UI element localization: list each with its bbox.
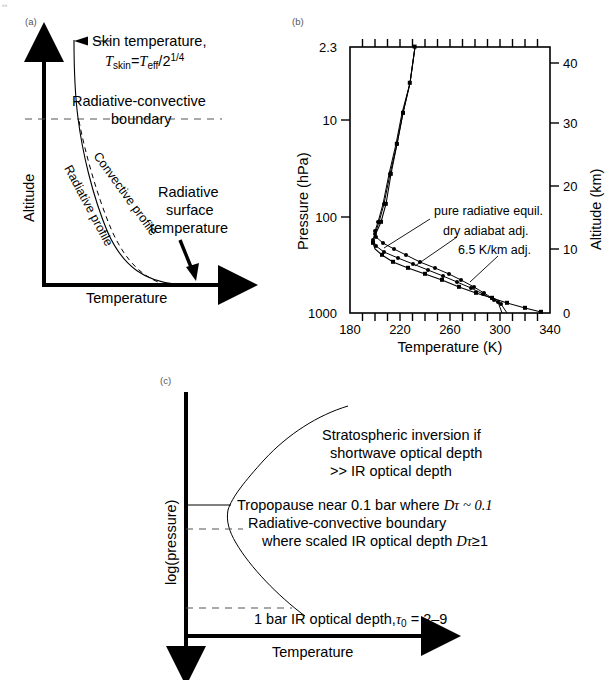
skin-eff-subscript: eff xyxy=(147,60,158,71)
panel-b-y2-axis-label: Altitude (km) xyxy=(588,169,604,250)
panel-c-rcb-line1: Radiative-convective boundary xyxy=(248,515,447,531)
panel-a-surface-label-line3: temperature xyxy=(150,220,228,236)
panel-b-leader-lapse65 xyxy=(470,256,498,282)
panel-b-markers-pure-radiative xyxy=(371,45,543,314)
panel-b-xtick-4: 340 xyxy=(539,322,561,337)
skin-exponent: 1/4 xyxy=(170,52,184,63)
panel-c-tropopause-prefix: Tropopause near 0.1 bar where xyxy=(237,497,444,513)
svg-text:Tskin=Teff/21/4: Tskin=Teff/21/4 xyxy=(105,52,185,71)
figure-container: (a) Altitude Temperature Skin temperatur… xyxy=(0,0,616,680)
skin-equals: = xyxy=(131,53,139,69)
panel-a-surface-label-line2: surface xyxy=(166,202,214,218)
panel-a-surface-label-line1: Radiative xyxy=(158,184,218,200)
panel-a-skin-equation: Tskin=Teff/21/4 xyxy=(105,52,185,71)
panel-c-rcb-suffix: ≥1 xyxy=(472,533,488,549)
panel-b-x-axis-label: Temperature (K) xyxy=(398,339,503,355)
surface-arrow-icon xyxy=(186,263,199,281)
panel-b-y2tick-0: 0 xyxy=(563,306,570,321)
panel-b-leader-dry-adiabat xyxy=(415,237,457,266)
panel-b-curve-pure-radiative xyxy=(373,47,541,312)
panel-b-label: (b) xyxy=(292,16,304,27)
panel-c-onebar-text: 1 bar IR optical depth,τ0 = 2–9 xyxy=(254,611,447,629)
panel-b-legend-dry-adiabat: dry adiabat adj. xyxy=(443,224,528,238)
panel-b-legend-pure-radiative: pure radiative equil. xyxy=(434,204,543,218)
panel-c-x-axis-label: Temperature xyxy=(272,644,353,660)
panel-c-tropopause-D: D xyxy=(443,497,455,513)
panel-b-y2tick-30: 30 xyxy=(563,116,577,131)
panel-b-x-tick-labels: 180 220 260 300 340 xyxy=(339,322,561,337)
panel-c-rcb-line2-prefix: where scaled IR optical depth xyxy=(261,533,456,549)
panel-b-curve-lapse65 xyxy=(375,47,502,313)
panel-b-y2-tick-labels: 40 30 20 10 0 xyxy=(563,56,577,321)
panel-b-y2tick-10: 10 xyxy=(563,242,577,257)
panel-c-rcb-line2: where scaled IR optical depth Dτ≥1 xyxy=(261,533,488,549)
panel-b-y-tick-labels: 2.3 10 100 1000 xyxy=(308,40,337,321)
panel-b-xtick-1: 220 xyxy=(389,322,411,337)
panel-b-xtick-3: 300 xyxy=(489,322,511,337)
panel-b-ytick-2: 100 xyxy=(315,210,337,225)
panel-b-xtick-2: 260 xyxy=(439,322,461,337)
panel-a-x-axis-label: Temperature xyxy=(86,290,167,306)
panel-b: (b) 180 220 260 xyxy=(292,16,604,355)
panel-b-y2tick-40: 40 xyxy=(563,56,577,71)
panel-a-boundary-label-line2: boundary xyxy=(111,111,172,127)
panel-a-label: (a) xyxy=(25,16,37,27)
panel-b-ytick-0: 2.3 xyxy=(319,40,337,55)
panel-b-top-ticks xyxy=(363,39,538,47)
panel-c-label: (c) xyxy=(160,375,171,386)
panel-c: (c) log(pressure) Temperature Stratosphe… xyxy=(160,375,493,660)
panel-b-ytick-3: 1000 xyxy=(308,306,337,321)
panel-b-y-axis-label: Pressure (hPa) xyxy=(295,152,311,250)
panel-c-onebar-prefix: 1 bar IR optical depth, xyxy=(254,611,396,627)
panel-b-xtick-0: 180 xyxy=(339,322,361,337)
panel-a-y-axis-label: Altitude xyxy=(21,174,37,222)
skin-arrow-icon xyxy=(74,37,88,46)
skin-subscript: skin xyxy=(113,60,131,71)
panel-c-inversion-line3: >> IR optical depth xyxy=(330,463,452,479)
panel-a-boundary-label-line1: Radiative-convective xyxy=(72,93,206,109)
skin-divide-two: /2 xyxy=(158,53,170,69)
panel-c-tropopause-suffix: ~ 0.1 xyxy=(459,497,492,513)
panel-b-y2tick-20: 20 xyxy=(563,179,577,194)
panel-a-skin-temperature-label: Skin temperature, xyxy=(92,33,206,49)
panel-c-tropopause-text: Tropopause near 0.1 bar where Dτ ~ 0.1 xyxy=(237,497,493,513)
panel-a: (a) Altitude Temperature Skin temperatur… xyxy=(21,16,228,306)
panel-b-legend-lapse65: 6.5 K/km adj. xyxy=(458,243,531,257)
panel-b-leader-pure-radiative xyxy=(384,219,430,248)
panel-c-inversion-line1: Stratospheric inversion if xyxy=(322,427,482,443)
panel-b-ytick-1: 10 xyxy=(323,113,337,128)
panel-a-radiative-profile-curve xyxy=(74,40,175,284)
panel-b-curve-dry-adiabat xyxy=(373,47,507,313)
panel-b-left-ticks xyxy=(341,120,350,217)
panel-c-y-axis-label: log(pressure) xyxy=(163,500,179,585)
panel-b-bottom-ticks xyxy=(363,313,538,321)
panel-c-onebar-suffix: = 2–9 xyxy=(407,611,448,627)
panel-b-right-ticks xyxy=(550,63,559,249)
panel-c-rcb-D: D xyxy=(455,533,467,549)
panel-c-inversion-line2: shortwave optical depth xyxy=(330,445,482,461)
